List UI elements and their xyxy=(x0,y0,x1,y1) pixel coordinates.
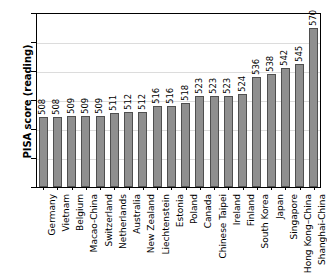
bar-slot: 508 xyxy=(39,13,48,187)
bar[interactable] xyxy=(138,112,147,187)
x-tick-mark xyxy=(271,187,272,190)
bar-value-label: 508 xyxy=(37,99,47,115)
y-axis-title: PISA score (reading) xyxy=(22,27,33,177)
bar-slot: 523 xyxy=(224,13,233,187)
bar-value-label: 523 xyxy=(194,77,204,93)
x-tick-mark xyxy=(57,187,58,190)
bar[interactable] xyxy=(124,112,133,187)
x-tick-mark xyxy=(157,187,158,190)
x-axis-category-label: Shanghai-China xyxy=(317,194,327,265)
x-axis-category-label: Estonia xyxy=(175,194,185,227)
x-tick-mark xyxy=(100,187,101,190)
bar[interactable] xyxy=(67,116,76,187)
bar-slot: 545 xyxy=(295,13,304,187)
x-tick-mark xyxy=(300,187,301,190)
x-tick-mark xyxy=(186,187,187,190)
x-tick-mark xyxy=(72,187,73,190)
x-axis-category-label: Hong Kong–China xyxy=(303,194,313,273)
bar[interactable] xyxy=(53,117,62,187)
bar-value-label: 509 xyxy=(66,98,76,114)
x-axis-category-label: Ireland xyxy=(232,194,242,225)
bar-value-label: 524 xyxy=(237,76,247,92)
bar[interactable] xyxy=(167,106,176,187)
x-axis-category-label: Australia xyxy=(132,194,142,234)
bar[interactable] xyxy=(153,106,162,187)
bar-slot: 536 xyxy=(252,13,261,187)
bar-slot: 511 xyxy=(110,13,119,187)
bar-value-label: 570 xyxy=(308,9,318,25)
bar-slot: 512 xyxy=(138,13,147,187)
bar[interactable] xyxy=(210,96,219,187)
bar[interactable] xyxy=(267,74,276,187)
bar[interactable] xyxy=(309,28,318,188)
bar[interactable] xyxy=(81,116,90,187)
bar[interactable] xyxy=(110,113,119,187)
bar[interactable] xyxy=(281,68,290,187)
x-axis-category-label: Chinese Taipei xyxy=(218,194,228,259)
x-axis-category-label: Macao-China xyxy=(89,194,99,252)
x-tick-mark xyxy=(314,187,315,190)
bar-slot: 509 xyxy=(67,13,76,187)
bar-value-label: 511 xyxy=(108,95,118,111)
bar-value-label: 508 xyxy=(51,99,61,115)
bar[interactable] xyxy=(252,77,261,187)
x-axis-category-label: Finland xyxy=(246,194,256,226)
x-tick-mark xyxy=(285,187,286,190)
bar-value-label: 509 xyxy=(80,98,90,114)
bar-value-label: 516 xyxy=(165,88,175,104)
bar-value-label: 518 xyxy=(180,85,190,101)
bars-layer: 5085085095095095115125125165165185235235… xyxy=(36,13,321,187)
bar-value-label: 509 xyxy=(94,98,104,114)
x-tick-mark xyxy=(171,187,172,190)
x-axis-category-label: Canada xyxy=(203,194,213,228)
bar[interactable] xyxy=(96,116,105,187)
bar-value-label: 536 xyxy=(251,59,261,75)
x-tick-mark xyxy=(200,187,201,190)
x-axis-category-label: Netherlands xyxy=(118,194,128,249)
bar[interactable] xyxy=(181,103,190,187)
x-axis-category-label: Germany xyxy=(47,194,57,235)
bar-slot: 542 xyxy=(281,13,290,187)
bar-value-label: 512 xyxy=(123,93,133,109)
x-tick-mark xyxy=(243,187,244,190)
bar-value-label: 545 xyxy=(294,46,304,62)
bar[interactable] xyxy=(238,94,247,187)
bar-slot: 509 xyxy=(81,13,90,187)
x-tick-mark xyxy=(214,187,215,190)
bar-value-label: 516 xyxy=(151,88,161,104)
bar-value-label: 538 xyxy=(265,56,275,72)
x-tick-mark xyxy=(43,187,44,190)
x-axis-category-label: New Zealand xyxy=(146,194,156,253)
bar-slot: 512 xyxy=(124,13,133,187)
x-tick-mark xyxy=(257,187,258,190)
bar-slot: 508 xyxy=(53,13,62,187)
x-axis-category-label: Vietnam xyxy=(61,194,71,232)
bar[interactable] xyxy=(195,96,204,187)
x-tick-mark xyxy=(228,187,229,190)
x-axis-labels: GermanyVietnamBelgiumMacao-ChinaSwitzerl… xyxy=(36,190,321,278)
bar-slot: 518 xyxy=(181,13,190,187)
x-axis-category-label: Switzerland xyxy=(104,194,114,247)
bar-value-label: 523 xyxy=(222,77,232,93)
bar-value-label: 523 xyxy=(208,77,218,93)
x-axis-category-label: Poland xyxy=(189,194,199,224)
y-tick-mark xyxy=(31,187,36,188)
bar-slot: 509 xyxy=(96,13,105,187)
x-axis-category-label: Liechtenstein xyxy=(161,194,171,254)
bar[interactable] xyxy=(224,96,233,187)
x-axis-category-label: Belgium xyxy=(75,194,85,231)
bar[interactable] xyxy=(295,64,304,187)
bar-slot: 516 xyxy=(153,13,162,187)
x-tick-mark xyxy=(114,187,115,190)
bar-slot: 523 xyxy=(210,13,219,187)
x-axis-category-label: Japan xyxy=(275,194,285,219)
x-axis-category-label: Singapore xyxy=(289,194,299,239)
bar-value-label: 542 xyxy=(279,50,289,66)
x-axis-line xyxy=(36,187,321,188)
bar[interactable] xyxy=(39,117,48,187)
bar-slot: 523 xyxy=(195,13,204,187)
bar-slot: 538 xyxy=(267,13,276,187)
x-axis-category-label: South Korea xyxy=(260,194,270,249)
bar-slot: 524 xyxy=(238,13,247,187)
